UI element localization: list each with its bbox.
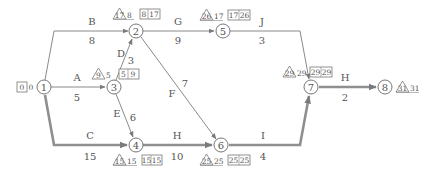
edge-A-name: A (72, 72, 81, 83)
svg-text:29: 29 (322, 68, 332, 77)
svg-text:8: 8 (382, 82, 388, 93)
edge-E: E 6 (113, 94, 136, 137)
svg-text:4: 4 (133, 140, 139, 151)
edge-J-name: J (259, 16, 264, 27)
svg-text:25: 25 (229, 156, 239, 165)
node-5: 5 (216, 24, 230, 38)
annotation-node-3: 9 5 5 9 (92, 68, 139, 80)
annotation-node-2: 17 8 8 17 (113, 8, 160, 20)
edge-I-name: I (261, 130, 265, 141)
svg-text:25: 25 (214, 157, 224, 166)
edge-H-name: H (173, 130, 182, 141)
node-3: 3 (107, 80, 121, 94)
svg-text:15: 15 (115, 157, 125, 166)
annotation-node-5: 26 17 17 26 (200, 9, 250, 21)
network-diagram: B 8 A 5 C 15 D 3 E 6 F 7 G 9 H 10 J 3 (0, 0, 429, 172)
annotation-node-8: 31 31 (396, 81, 420, 93)
svg-text:5: 5 (106, 71, 111, 80)
svg-text:29: 29 (311, 68, 321, 77)
edge-E-duration: 6 (130, 112, 136, 123)
svg-text:7: 7 (308, 82, 314, 93)
node-7: 7 (304, 80, 318, 94)
svg-text:26: 26 (202, 12, 212, 21)
annotation-node-4: 15 15 15 15 (113, 154, 162, 166)
svg-text:6: 6 (218, 140, 224, 151)
edge-C-name: C (86, 130, 94, 141)
edge-F-duration: 7 (182, 78, 188, 89)
svg-text:15: 15 (152, 156, 162, 165)
svg-text:29: 29 (285, 69, 295, 78)
svg-text:17: 17 (229, 11, 239, 20)
edge-D-name: D (117, 48, 125, 59)
edge-H2-name: H (341, 72, 350, 83)
edge-H-duration: 10 (171, 151, 184, 162)
svg-text:5: 5 (121, 70, 126, 79)
edge-B-duration: 8 (89, 35, 95, 46)
node-2: 2 (129, 24, 143, 38)
edge-I: I 4 (229, 96, 309, 162)
svg-text:15: 15 (127, 157, 137, 166)
node-6: 6 (214, 138, 228, 152)
svg-text:9: 9 (96, 71, 101, 80)
edge-C-duration: 15 (84, 151, 97, 162)
svg-text:17: 17 (115, 11, 125, 20)
svg-text:8: 8 (127, 11, 132, 20)
svg-text:9: 9 (131, 70, 136, 79)
annotation-node-1: 0 0 (17, 82, 34, 92)
edge-F-name: F (169, 88, 176, 99)
edge-D-duration: 3 (128, 55, 134, 66)
edge-G-duration: 9 (175, 35, 181, 46)
edge-H2-duration: 2 (342, 92, 348, 103)
svg-text:5: 5 (220, 26, 226, 37)
edge-E-name: E (113, 108, 120, 119)
svg-text:29: 29 (297, 69, 307, 78)
annotation-node-6: 25 25 25 25 (200, 154, 250, 166)
edge-B-name: B (88, 16, 95, 27)
edge-B: B 8 (45, 16, 128, 80)
svg-text:15: 15 (142, 156, 152, 165)
svg-text:0: 0 (29, 83, 34, 92)
edge-J-duration: 3 (259, 35, 265, 46)
svg-text:25: 25 (240, 156, 250, 165)
svg-text:0: 0 (20, 83, 25, 92)
svg-text:8: 8 (142, 10, 147, 19)
edge-C: C 15 (45, 95, 127, 162)
svg-text:31: 31 (398, 84, 408, 93)
node-1: 1 (37, 80, 51, 94)
svg-text:31: 31 (410, 84, 420, 93)
node-8: 8 (378, 80, 392, 94)
svg-text:25: 25 (202, 157, 212, 166)
svg-text:17: 17 (214, 12, 224, 21)
svg-text:3: 3 (111, 82, 117, 93)
svg-text:26: 26 (240, 11, 250, 20)
svg-text:17: 17 (149, 10, 159, 19)
edge-G-name: G (174, 16, 182, 27)
svg-text:1: 1 (41, 82, 47, 93)
svg-text:2: 2 (133, 26, 139, 37)
edge-F: F 7 (141, 37, 216, 139)
node-4: 4 (129, 138, 143, 152)
edge-A-duration: 5 (74, 92, 80, 103)
edge-I-duration: 4 (260, 151, 266, 162)
